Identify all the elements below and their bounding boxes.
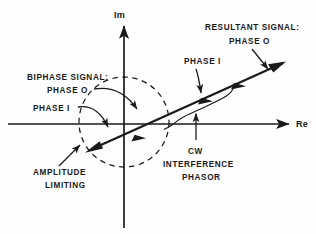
- phase-one-leader-line: [196, 69, 201, 93]
- cw-line3: PHASOR: [182, 173, 221, 182]
- biphase-lower-arrowhead: [85, 141, 103, 153]
- cw-line2: INTERFERENCE: [163, 160, 234, 169]
- biphase-upper-arrowhead: [132, 135, 147, 142]
- phase-one-main-label: PHASE I: [184, 57, 221, 93]
- resultant-arrowhead-outer: [268, 62, 286, 73]
- real-axis-label: Re: [296, 119, 308, 129]
- amplitude-leader-line: [59, 145, 80, 166]
- main-phasor-shaft: [92, 63, 283, 149]
- amplitude-line2: LIMITING: [45, 181, 86, 190]
- biphase-signal-label: BIPHASE SIGNAL: PHASE O PHASE I: [27, 73, 137, 127]
- phase-one-main-text: PHASE I: [184, 57, 221, 66]
- main-phasor-group: [85, 62, 286, 153]
- resultant-leader-line: [252, 49, 268, 69]
- biphase-line1: BIPHASE SIGNAL:: [27, 73, 108, 82]
- cw-interference-label: CW INTERFERENCE PHASOR: [163, 147, 234, 182]
- cw-interference-brace: [164, 89, 233, 140]
- amplitude-limiting-label: AMPLITUDE LIMITING: [33, 145, 86, 190]
- phasor-diagram-canvas: Im Re RESULTANT SIGNAL: PHASE O PHASE I: [0, 0, 316, 234]
- biphase-line3: PHASE I: [33, 104, 70, 113]
- resultant-signal-line2: PHASE O: [229, 37, 270, 46]
- biphase-line2: PHASE O: [47, 86, 88, 95]
- resultant-signal-line1: RESULTANT SIGNAL:: [205, 23, 300, 32]
- amplitude-line1: AMPLITUDE: [33, 168, 86, 177]
- biphase-phase-o-leader: [94, 88, 137, 109]
- cw-line1: CW: [188, 147, 203, 156]
- imaginary-axis-label: Im: [114, 10, 125, 20]
